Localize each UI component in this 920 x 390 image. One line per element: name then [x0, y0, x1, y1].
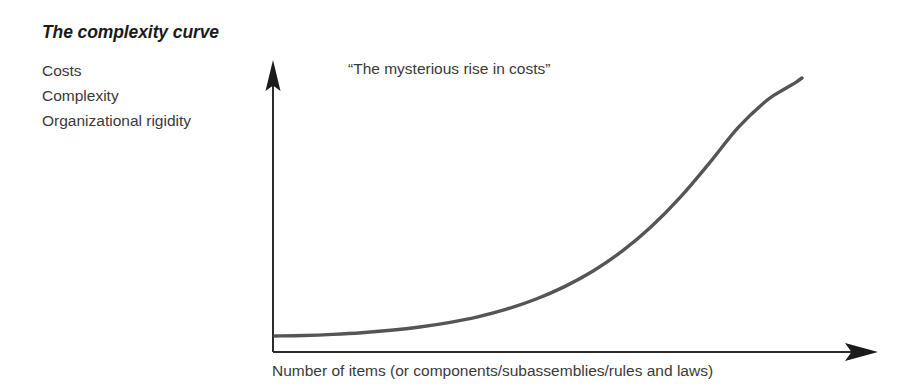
- plot-area: [0, 0, 920, 390]
- complexity-curve-line: [275, 78, 802, 336]
- complexity-curve-figure: The complexity curve Costs Complexity Or…: [0, 0, 920, 390]
- x-axis-caption: Number of items (or components/subassemb…: [272, 360, 713, 382]
